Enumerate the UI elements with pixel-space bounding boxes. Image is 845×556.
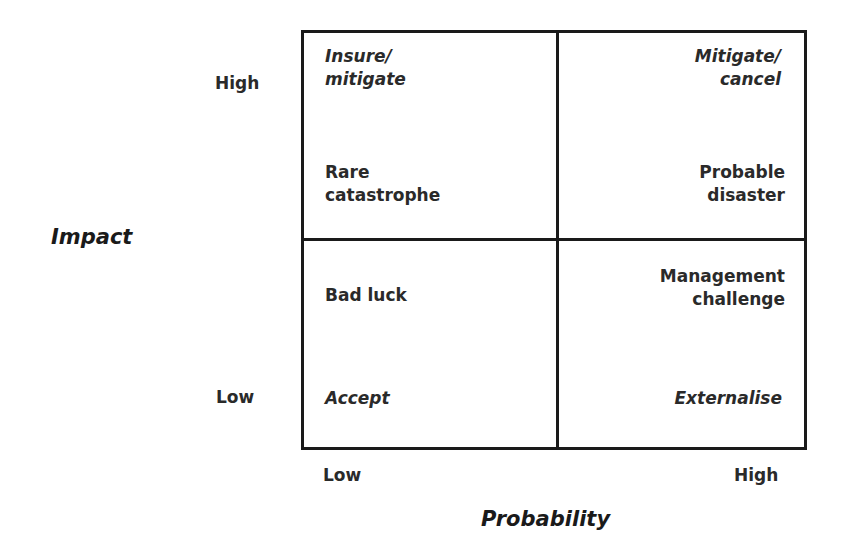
quadrant-tl-strategy: Insure/ mitigate (325, 45, 406, 91)
x-axis-high-label: High (734, 465, 778, 485)
risk-matrix: Insure/ mitigate Rare catastrophe Mitiga… (301, 30, 807, 450)
x-axis-title: Probability (481, 507, 610, 531)
quadrant-br-label: Management challenge (660, 265, 785, 311)
y-axis-low-label: Low (216, 387, 254, 407)
y-axis-high-label: High (215, 73, 259, 93)
horizontal-divider (304, 238, 804, 241)
quadrant-tl-label: Rare catastrophe (325, 161, 440, 207)
quadrant-bl-strategy: Accept (325, 387, 390, 410)
quadrant-tr-label: Probable disaster (699, 161, 785, 207)
quadrant-bl-label: Bad luck (325, 284, 407, 307)
x-axis-low-label: Low (323, 465, 361, 485)
quadrant-tr-strategy: Mitigate/ cancel (695, 45, 781, 91)
quadrant-br-strategy: Externalise (675, 387, 783, 410)
y-axis-title: Impact (51, 225, 132, 249)
